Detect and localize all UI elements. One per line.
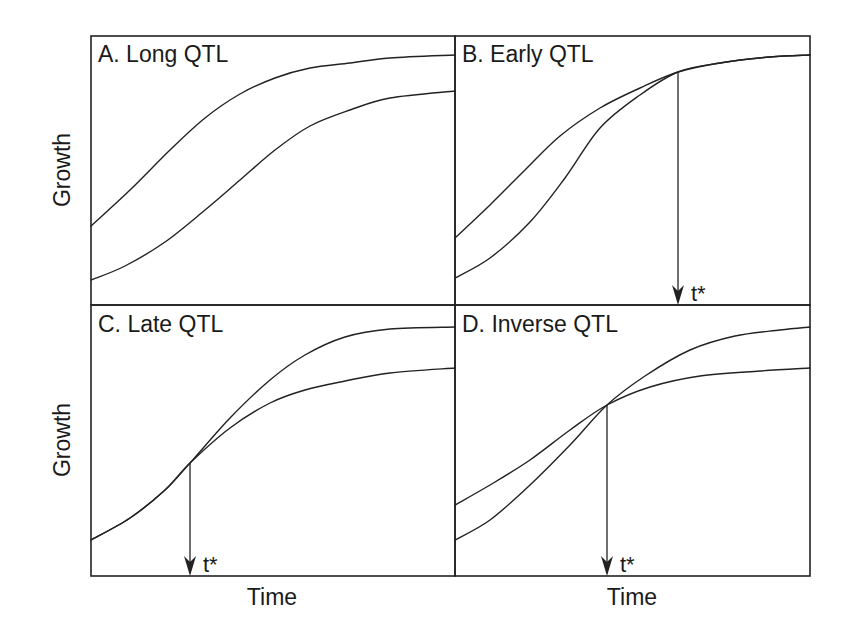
panel-c-upper-curve <box>91 327 455 540</box>
panel-d: D. Inverse QTL t* <box>455 311 810 577</box>
panel-a-frame <box>91 36 455 305</box>
y-axis-label-bottom: Growth <box>49 403 75 477</box>
panel-a-lower-curve <box>91 91 455 280</box>
tstar-label: t* <box>620 552 635 577</box>
qtl-growth-figure: A. Long QTL B. Early QTL t* C. Late QTL … <box>0 0 851 637</box>
panel-d-title: D. Inverse QTL <box>462 311 618 337</box>
panel-c-lower-curve <box>91 368 455 540</box>
panel-d-lower-curve <box>455 368 810 505</box>
panel-c: C. Late QTL t* <box>91 311 455 577</box>
panel-c-title: C. Late QTL <box>98 311 223 337</box>
panel-b-tstar-arrow: t* <box>672 72 706 306</box>
panel-c-tstar-arrow: t* <box>184 463 218 577</box>
panel-d-upper-curve <box>455 327 810 540</box>
panel-a-title: A. Long QTL <box>98 41 229 67</box>
tstar-label: t* <box>203 552 218 577</box>
x-axis-label-left: Time <box>247 584 297 610</box>
tstar-label: t* <box>691 281 706 306</box>
y-axis-label-top: Growth <box>49 133 75 207</box>
panel-a-upper-curve <box>91 55 455 226</box>
panel-b-frame <box>455 36 810 305</box>
panel-d-frame <box>455 305 810 576</box>
x-axis-label-right: Time <box>607 584 657 610</box>
panel-d-tstar-arrow: t* <box>601 405 635 577</box>
panel-c-frame <box>91 305 455 576</box>
panel-b-title: B. Early QTL <box>462 41 594 67</box>
panel-b: B. Early QTL t* <box>455 41 810 306</box>
panel-b-lower-curve <box>455 55 810 278</box>
panel-a: A. Long QTL <box>91 41 455 280</box>
panel-b-upper-curve <box>455 55 810 238</box>
